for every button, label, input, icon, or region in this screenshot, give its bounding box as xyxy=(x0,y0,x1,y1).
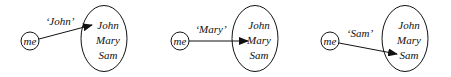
diagram-canvas: me ‘John’ John Mary Sam me ‘Mary’ John M… xyxy=(0,0,451,77)
set-item: John xyxy=(248,19,270,31)
arrow-label: ‘Sam’ xyxy=(347,27,374,39)
set-item: Sam xyxy=(99,49,118,61)
source-label: me xyxy=(24,35,37,47)
set-item: John xyxy=(97,19,119,31)
set-item: Sam xyxy=(400,49,419,61)
set-item: Mary xyxy=(95,34,120,46)
arrow-label: ‘Mary’ xyxy=(195,23,226,35)
set-item: Mary xyxy=(246,34,271,46)
set-item: Mary xyxy=(396,34,421,46)
panel-2: me ‘Mary’ John Mary Sam xyxy=(171,6,278,72)
arrow xyxy=(339,43,397,54)
source-label: me xyxy=(174,35,187,47)
source-label: me xyxy=(324,35,337,47)
arrow-label: ‘John’ xyxy=(46,15,75,27)
set-item: Sam xyxy=(250,49,269,61)
panel-3: me ‘Sam’ John Mary Sam xyxy=(321,6,428,72)
arrow xyxy=(39,25,92,39)
panel-1: me ‘John’ John Mary Sam xyxy=(21,6,127,72)
set-item: John xyxy=(398,19,420,31)
